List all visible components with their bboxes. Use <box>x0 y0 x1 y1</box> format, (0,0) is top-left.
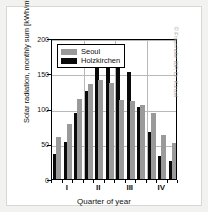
y-tick-100: 100 <box>27 106 49 113</box>
bar-seoul <box>109 83 114 179</box>
bar-group <box>158 39 167 179</box>
x-axis-title: Quarter of year <box>7 197 201 206</box>
legend-label-holzkirchen: Holzkirchen <box>81 56 120 65</box>
bar-group <box>127 39 136 179</box>
y-tick-150: 150 <box>27 71 49 78</box>
bar-seoul <box>130 101 135 179</box>
x-tick-III: III <box>126 183 133 192</box>
bar-seoul <box>98 80 103 179</box>
x-tick-I: I <box>66 183 68 192</box>
chart-card: Solar radiation, monthly sum [kWh/m²] 05… <box>6 6 202 206</box>
x-axis-tick-labels: IIIIIIIV <box>51 183 177 195</box>
legend-item-seoul: Seoul <box>61 47 120 56</box>
y-tick-0: 0 <box>27 177 49 184</box>
legend: Seoul Holzkirchen <box>57 44 125 68</box>
bar-seoul <box>161 135 166 179</box>
legend-item-holzkirchen: Holzkirchen <box>61 56 120 65</box>
bar-seoul <box>119 100 124 179</box>
y-tick-200: 200 <box>27 36 49 43</box>
credit-text: © Fraunhofer IBP, Dr. Künzel <box>173 3 179 121</box>
bar-seoul <box>56 137 61 179</box>
y-tick-50: 50 <box>27 141 49 148</box>
bar-seoul <box>67 124 72 179</box>
y-axis-tick-labels: 050100150200 <box>23 39 49 180</box>
bar-group <box>137 39 146 179</box>
legend-label-seoul: Seoul <box>81 47 100 56</box>
bar-seoul <box>140 105 145 179</box>
bar-seoul <box>172 143 177 179</box>
legend-swatch-holzkirchen <box>61 58 77 64</box>
bar-seoul <box>77 99 82 179</box>
bar-group <box>148 39 157 179</box>
x-tick-mark <box>177 180 178 183</box>
x-tick-IV: IV <box>157 183 165 192</box>
bar-seoul <box>88 84 93 179</box>
plot-area: Seoul Holzkirchen <box>51 39 177 180</box>
legend-swatch-seoul <box>61 49 77 55</box>
bar-seoul <box>151 113 156 179</box>
x-tick-II: II <box>96 183 100 192</box>
